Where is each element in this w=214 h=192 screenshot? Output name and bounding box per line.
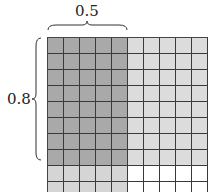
grid-cell [96,118,112,134]
grid-cell [48,182,64,192]
grid-cell [96,102,112,118]
grid-cell [128,118,144,134]
grid-cell [96,134,112,150]
decimal-grid [47,37,208,192]
grid-cell [64,54,80,70]
grid-cell [112,102,128,118]
grid-cell [160,118,176,134]
grid-cell [144,134,160,150]
grid-cell [80,38,96,54]
grid-cell [176,38,192,54]
grid-cell [48,38,64,54]
grid-cell [144,166,160,182]
grid-cell [160,166,176,182]
grid-cell [80,118,96,134]
grid-cell [192,118,208,134]
grid-cell [48,134,64,150]
horizontal-brace [48,21,127,30]
grid-cell [112,134,128,150]
grid-cell [112,38,128,54]
grid-cell [192,70,208,86]
grid-cell [192,102,208,118]
grid-cell [48,86,64,102]
grid-cell [160,70,176,86]
grid-cell [144,150,160,166]
grid-cell [48,54,64,70]
horizontal-label: 0.5 [75,2,99,20]
grid-cell [144,54,160,70]
grid-cell [192,150,208,166]
grid-cell [160,150,176,166]
grid-cell [112,182,128,192]
grid-cell [160,182,176,192]
grid-cell [48,166,64,182]
grid-cell [96,54,112,70]
grid-cell [128,182,144,192]
grid-cell [112,150,128,166]
grid-cell [64,166,80,182]
grid-cell [128,134,144,150]
vertical-brace [32,38,41,160]
grid-cell [48,70,64,86]
vertical-label: 0.8 [7,90,31,108]
grid-cell [112,54,128,70]
grid-cell [160,134,176,150]
grid-cell [144,38,160,54]
grid-cell [160,102,176,118]
grid-cell [80,166,96,182]
grid-cell [64,150,80,166]
grid-cell [192,134,208,150]
grid-cell [192,86,208,102]
grid-cell [128,54,144,70]
grid-cell [192,182,208,192]
grid-cell [80,70,96,86]
grid-cell [160,86,176,102]
grid-cell [176,166,192,182]
grid-cell [112,166,128,182]
grid-cell [96,38,112,54]
grid-cell [128,166,144,182]
grid-cell [96,166,112,182]
grid-cell [160,54,176,70]
grid-cell [48,150,64,166]
grid-cell [128,102,144,118]
grid-cell [176,118,192,134]
grid-cell [192,38,208,54]
grid-cell [128,38,144,54]
grid-cell [144,182,160,192]
grid-cell [64,70,80,86]
grid-cell [48,118,64,134]
grid-cell [176,102,192,118]
grid-cell [144,102,160,118]
grid-cell [48,102,64,118]
grid-cell [64,118,80,134]
grid-cell [176,134,192,150]
grid-cell [80,182,96,192]
grid-cell [128,150,144,166]
grid-cell [112,86,128,102]
grid-cell [80,54,96,70]
grid-cell [80,150,96,166]
grid-cell [144,118,160,134]
grid-cell [144,86,160,102]
grid-cell [96,70,112,86]
grid-cell [112,70,128,86]
grid-cell [176,54,192,70]
grid-cell [64,182,80,192]
grid-cell [144,70,160,86]
grid-cell [80,102,96,118]
grid-cell [80,86,96,102]
grid-cell [176,70,192,86]
grid-cell [64,134,80,150]
grid-cell [64,86,80,102]
grid-cell [80,134,96,150]
grid-cell [96,86,112,102]
grid-cell [96,150,112,166]
grid-cell [112,118,128,134]
grid-cell [176,150,192,166]
grid-cell [64,38,80,54]
grid-cell [176,182,192,192]
grid-cell [96,182,112,192]
grid-cell [192,54,208,70]
grid-cell [160,38,176,54]
